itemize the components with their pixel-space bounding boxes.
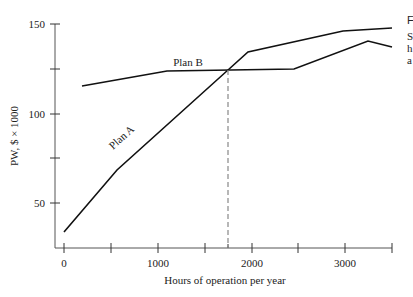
x-tick-label-1000: 1000 xyxy=(147,257,170,269)
x-tick-label-3000: 3000 xyxy=(334,257,357,269)
y-tick-label-100: 100 xyxy=(29,108,46,120)
y-axis-title: PW, $ × 1000 xyxy=(8,105,20,166)
caption-fragment-3: h xyxy=(407,42,413,54)
y-tick-label-150: 150 xyxy=(29,18,46,30)
x-tick-label-0: 0 xyxy=(61,257,67,269)
x-tick-label-2000: 2000 xyxy=(241,257,264,269)
plan-b-label: Plan B xyxy=(173,56,203,68)
plan-a-label: Plan A xyxy=(106,123,136,152)
caption-fragment-1: F xyxy=(407,14,413,26)
breakeven-chart: 150 100 50 0 1000 2000 3000 Hours of ope… xyxy=(0,0,413,297)
x-axis-title: Hours of operation per year xyxy=(164,274,286,286)
y-tick-label-50: 50 xyxy=(34,197,46,209)
plan-b-line xyxy=(82,41,392,86)
caption-fragment-4: a xyxy=(407,54,412,66)
caption-fragment-2: S xyxy=(407,30,413,42)
